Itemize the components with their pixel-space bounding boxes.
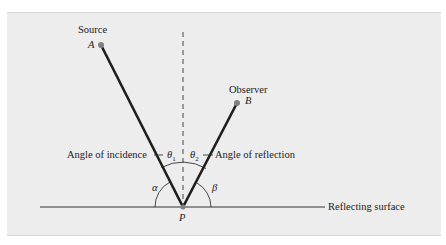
observer-label: Observer (229, 85, 267, 96)
alpha-label: α (152, 183, 158, 194)
source-label: Source (78, 25, 107, 36)
point-b-label: B (245, 96, 251, 107)
beta-label: β (212, 183, 217, 194)
point-a-label: A (88, 40, 94, 51)
point-b-dot (234, 100, 240, 106)
reflecting-surface-label: Reflecting surface (328, 202, 405, 213)
point-p-label: P (179, 213, 185, 224)
point-p-dot (181, 205, 186, 210)
theta1-label: θ1 (167, 150, 176, 163)
beta-arc (197, 183, 211, 207)
angle-reflection-label: Angle of reflection (215, 150, 295, 161)
incident-ray (101, 45, 183, 207)
point-a-dot (98, 42, 104, 48)
theta2-label: θ2 (190, 150, 199, 163)
angle-incidence-label: Angle of incidence (67, 150, 147, 161)
